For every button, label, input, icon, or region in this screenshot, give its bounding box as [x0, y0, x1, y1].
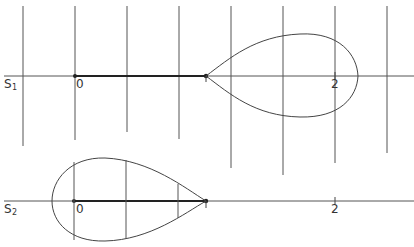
- bottom-axis-label: S: [4, 202, 12, 216]
- bottom-axis-subscript: 2: [12, 208, 17, 217]
- top-two-label: 2: [331, 77, 339, 91]
- top-axis-label: S: [4, 77, 12, 91]
- bottom-two-label: 2: [331, 202, 339, 216]
- top-origin-label: 0: [76, 77, 84, 91]
- diagram-canvas: S 1 0 2 S 2 0 2: [0, 0, 414, 247]
- bottom-origin-label: 0: [76, 202, 84, 216]
- top-axis-subscript: 1: [12, 83, 17, 92]
- bottom-axis: [4, 197, 414, 208]
